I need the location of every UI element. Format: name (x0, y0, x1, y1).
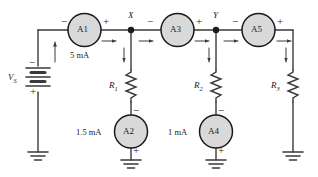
ammeter-a1-terminal-minus: − (61, 16, 67, 27)
ammeter-a4-label: A4 (208, 127, 219, 136)
node-label-x: X (128, 11, 134, 20)
battery-symbol (26, 68, 50, 86)
ammeter-a5-terminal-plus: + (277, 16, 283, 27)
ground-r3-symbol (283, 152, 303, 160)
resistor-r3-label: R3 (271, 81, 280, 92)
ammeter-a2-reading: 1.5 mA (76, 128, 102, 137)
resistor-r2-label: R2 (194, 81, 203, 92)
ammeter-a1-reading: 5 mA (70, 51, 89, 60)
ammeter-a4-terminal-plus: + (218, 145, 224, 156)
ammeter-a3-terminal-minus: − (147, 16, 153, 27)
resistor-r1-label: R1 (109, 81, 118, 92)
ammeter-a1-label: A1 (77, 25, 88, 34)
circuit-diagram: VS − + A1 − + 5 mA X A3 − + Y A5 − + R1 … (0, 0, 318, 177)
source-terminal-minus: − (29, 57, 35, 68)
ammeter-a4-reading: 1 mA (168, 128, 187, 137)
resistor-r2-symbol (211, 70, 221, 102)
ammeter-a5-label: A5 (251, 25, 262, 34)
resistor-r1-symbol (126, 70, 136, 102)
node-dot-y (213, 27, 219, 33)
source-terminal-plus: + (30, 86, 36, 97)
ammeter-a1-terminal-plus: + (103, 16, 109, 27)
ammeter-a2-terminal-plus: + (133, 145, 139, 156)
ammeter-a5-terminal-minus: − (232, 16, 238, 27)
node-label-y: Y (213, 11, 218, 20)
ammeter-a3-terminal-plus: + (196, 16, 202, 27)
ground-a4-symbol (206, 160, 226, 168)
ground-a2-symbol (121, 160, 141, 168)
ammeter-a2-terminal-minus: − (133, 105, 139, 116)
ground-source-symbol (28, 152, 48, 160)
resistor-r3-symbol (288, 70, 298, 102)
ammeter-a4-terminal-minus: − (218, 105, 224, 116)
node-dot-x (128, 27, 134, 33)
source-label: VS (8, 73, 17, 84)
ammeter-a2-label: A2 (123, 127, 134, 136)
ammeter-a3-label: A3 (170, 25, 181, 34)
